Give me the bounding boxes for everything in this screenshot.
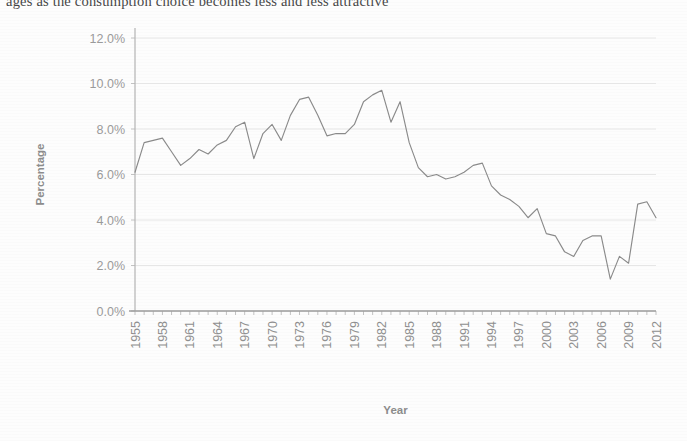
x-tick-label: 1958 — [156, 321, 170, 349]
x-tick-label: 2000 — [540, 321, 554, 349]
y-tick-label: 10.0% — [90, 77, 125, 91]
y-tick-label: 2.0% — [97, 259, 126, 273]
y-tick-label: 8.0% — [97, 123, 126, 137]
x-tick-label: 1973 — [293, 321, 307, 349]
x-tick-label: 1994 — [485, 321, 499, 349]
y-tick-label: 0.0% — [97, 305, 126, 319]
line-chart: 0.0%2.0%4.0%6.0%8.0%10.0%12.0% 195519581… — [0, 14, 687, 441]
y-tick-label: 6.0% — [97, 168, 126, 182]
series-polyline — [135, 90, 656, 279]
x-tick-label: 1970 — [266, 321, 280, 349]
x-axis-title: Year — [383, 404, 408, 416]
x-tick-label: 1979 — [348, 321, 362, 349]
x-tick-label: 1982 — [375, 321, 389, 349]
y-tick-label: 12.0% — [90, 32, 125, 46]
x-tick-label: 2009 — [622, 321, 636, 349]
x-tick-label: 2006 — [595, 321, 609, 349]
cutoff-body-text-line: ages as the consumption choice becomes l… — [0, 0, 687, 10]
x-tick-label: 1988 — [430, 321, 444, 349]
x-tick-label: 1964 — [211, 321, 225, 349]
y-tick-label: 4.0% — [97, 214, 126, 228]
cutoff-body-text: ages as the consumption choice becomes l… — [0, 0, 687, 13]
x-tick-label: 2003 — [567, 321, 581, 349]
x-tick-label: 1967 — [238, 321, 252, 349]
x-axis-tick-labels: 1955195819611964196719701973197619791982… — [129, 321, 664, 349]
data-series-line — [135, 90, 656, 279]
y-axis-title: Percentage — [34, 143, 46, 205]
x-tick-label: 1985 — [403, 321, 417, 349]
x-tick-label: 1976 — [320, 321, 334, 349]
x-tick-label: 1991 — [458, 321, 472, 349]
chart-canvas: 0.0%2.0%4.0%6.0%8.0%10.0%12.0% 195519581… — [0, 14, 687, 441]
y-axis-tick-labels: 0.0%2.0%4.0%6.0%8.0%10.0%12.0% — [90, 32, 125, 319]
x-tick-label: 1955 — [129, 321, 143, 349]
gridlines-group — [131, 38, 656, 311]
x-tick-label: 2012 — [650, 321, 664, 349]
x-tick-label: 1961 — [183, 321, 197, 349]
x-tick-label: 1997 — [512, 321, 526, 349]
